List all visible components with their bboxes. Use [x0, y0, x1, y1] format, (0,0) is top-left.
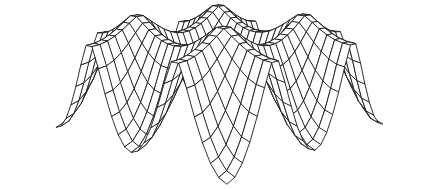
wireframe-surface-plot	[0, 0, 439, 189]
figure-canvas	[0, 0, 439, 189]
